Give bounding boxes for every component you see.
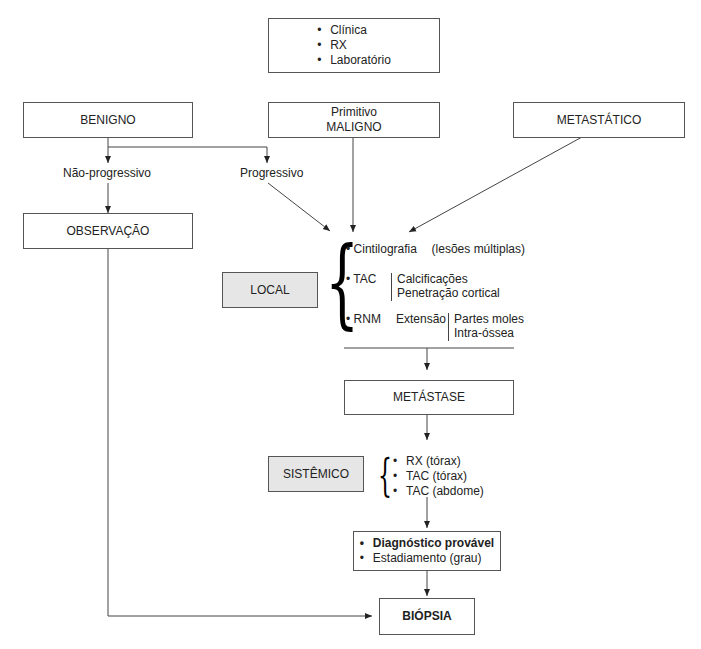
tac-item: • TAC [346, 272, 376, 287]
initial-exams-box: Clínica RX Laboratório [268, 18, 440, 73]
cintilografia-note: (lesões múltiplas) [432, 242, 525, 256]
metastase-label: METÁSTASE [393, 390, 465, 405]
observacao-label: OBSERVAÇÃO [67, 224, 150, 239]
tac-divider [391, 273, 392, 301]
biopsia-box: BIÓPSIA [379, 598, 475, 635]
exam-rx: RX [317, 38, 391, 53]
cintilografia-item: • Cintilografia (lesões múltiplas) [346, 242, 525, 257]
cintilografia-name: Cintilografia [354, 242, 417, 256]
rnm-divider [448, 313, 449, 341]
rnm-detail-1: Partes moles [454, 312, 524, 327]
tac-detail-2: Penetração cortical [397, 286, 500, 301]
observacao-box: OBSERVAÇÃO [23, 213, 193, 249]
metastatico-box: METASTÁTICO [513, 102, 685, 138]
exam-laboratorio: Laboratório [317, 53, 391, 68]
rnm-aspect: Extensão [396, 312, 446, 327]
sistemico-label: SISTÊMICO [283, 467, 349, 482]
sistemico-list: RX (tórax) TAC (tórax) TAC (abdome) [393, 454, 484, 499]
estadiamento: Estadiamento (grau) [360, 551, 494, 566]
rnm-name: RNM [354, 312, 381, 326]
rnm-item: • RNM [346, 312, 381, 327]
local-box: LOCAL [222, 272, 318, 308]
sistemico-item: RX (tórax) [393, 454, 484, 469]
progressivo-label: Progressivo [240, 166, 303, 181]
sistemico-item: TAC (tórax) [393, 469, 484, 484]
metastase-box: METÁSTASE [344, 380, 514, 415]
diagnostico-box: Diagnóstico provável Estadiamento (grau) [353, 531, 501, 571]
maligno-line1: Primitivo [331, 105, 377, 120]
exam-clinica: Clínica [317, 23, 391, 38]
tac-detail-1: Calcificações [397, 272, 468, 287]
benigno-box: BENIGNO [23, 102, 193, 138]
sistemico-brace: { [378, 450, 392, 502]
sistemico-item: TAC (abdome) [393, 484, 484, 499]
local-label: LOCAL [250, 283, 289, 298]
maligno-box: Primitivo MALIGNO [268, 102, 440, 138]
diagnostico-provavel: Diagnóstico provável [360, 536, 494, 551]
sistemico-box: SISTÊMICO [268, 456, 364, 492]
tac-name: TAC [353, 272, 376, 286]
rnm-detail-2: Intra-óssea [454, 326, 514, 341]
biopsia-label: BIÓPSIA [402, 609, 451, 624]
metastatico-label: METASTÁTICO [557, 113, 641, 128]
maligno-line2: MALIGNO [326, 120, 381, 135]
nao-progressivo-label: Não-progressivo [63, 166, 151, 181]
benigno-label: BENIGNO [80, 113, 135, 128]
